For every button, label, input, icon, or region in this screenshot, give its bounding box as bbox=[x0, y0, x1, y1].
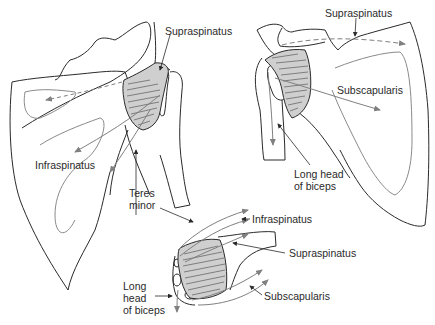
posterior-muscle-shading bbox=[123, 63, 168, 130]
anterior-biceps-leader bbox=[278, 124, 310, 165]
anterior-supraspinatus-label: Supraspinatus bbox=[325, 7, 392, 19]
posterior-teres-minor-arrow bbox=[110, 110, 150, 172]
anterior-long-head-biceps-label: Long head of biceps bbox=[294, 168, 344, 192]
anterior-supraspinatus-leader bbox=[355, 18, 356, 36]
anterior-subscapularis-label: Subscapularis bbox=[337, 84, 403, 96]
superior-biceps-arrow bbox=[177, 290, 178, 312]
posterior-supraspinatus-label: Supraspinatus bbox=[165, 25, 232, 37]
posterior-infraspinatus-label: Infraspinatus bbox=[35, 159, 95, 171]
posterior-scapula-outline bbox=[10, 71, 128, 290]
superior-teres-minor-leader bbox=[160, 208, 193, 222]
superior-supraspinatus-leader bbox=[233, 243, 285, 253]
anterior-scapula-outline bbox=[340, 22, 429, 226]
rotator-cuff-diagram: Supraspinatus Infraspinatus Teres minor … bbox=[0, 0, 435, 325]
posterior-teres-minor-label: Teres minor bbox=[129, 187, 155, 211]
anterior-biceps-arrow bbox=[268, 72, 273, 145]
superior-supraspinatus-label: Supraspinatus bbox=[289, 247, 356, 259]
superior-subscapularis-label: Subscapularis bbox=[264, 290, 330, 302]
posterior-supraspinatus-arrow bbox=[46, 82, 122, 100]
posterior-view bbox=[10, 22, 190, 290]
anterior-supraspinatus-arrow bbox=[282, 39, 405, 45]
superior-subscapularis-leader bbox=[250, 286, 262, 295]
superior-infraspinatus-label: Infraspinatus bbox=[252, 213, 312, 225]
superior-long-head-biceps-label: Long head of biceps bbox=[123, 280, 165, 316]
superior-muscle-shading bbox=[178, 239, 227, 298]
anterior-subscapularis-shading bbox=[265, 49, 311, 118]
